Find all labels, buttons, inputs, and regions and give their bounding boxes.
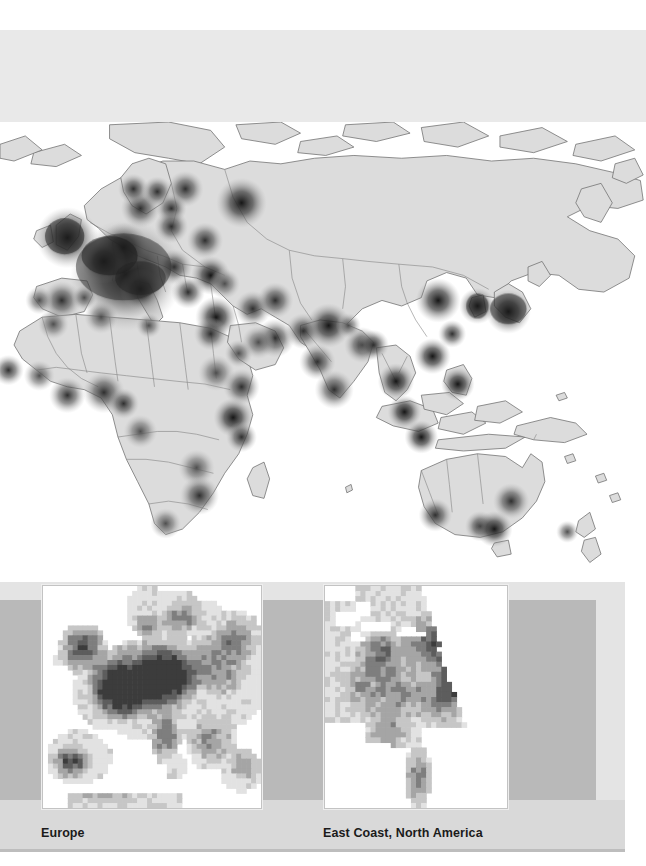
raster-cell: [187, 749, 193, 755]
raster-cell: [246, 650, 252, 656]
raster-cell: [83, 625, 89, 631]
raster-cell: [381, 636, 387, 642]
raster-cell: [256, 685, 261, 691]
raster-cell: [251, 635, 257, 641]
density-hotspot: [136, 313, 161, 338]
raster-cell: [207, 601, 213, 607]
raster-cell: [73, 625, 79, 631]
raster-cell: [226, 685, 232, 691]
raster-cell: [386, 631, 392, 637]
raster-cell: [83, 744, 89, 750]
raster-cell: [256, 773, 261, 779]
raster-cell: [436, 652, 442, 658]
raster-cell: [231, 719, 237, 725]
raster-cell: [83, 749, 89, 755]
raster-cell: [202, 759, 208, 765]
raster-cell: [98, 764, 104, 770]
raster-cell: [172, 739, 178, 745]
raster-cell: [88, 695, 94, 701]
raster-cell: [197, 734, 203, 740]
raster-cell: [236, 685, 242, 691]
raster-cell: [360, 652, 366, 658]
raster-cell: [371, 586, 377, 592]
raster-cell: [236, 675, 242, 681]
raster-cell: [411, 712, 417, 718]
raster-cell: [147, 596, 153, 602]
raster-cell: [177, 625, 183, 631]
raster-cell: [396, 652, 402, 658]
raster-cell: [355, 707, 361, 713]
raster-cell: [236, 764, 242, 770]
raster-cell: [236, 709, 242, 715]
raster-cell: [162, 699, 168, 705]
raster-cell: [211, 709, 217, 715]
raster-cell: [211, 724, 217, 730]
raster-cell: [236, 788, 242, 794]
raster-cell: [381, 596, 387, 602]
raster-cell: [411, 732, 417, 738]
raster-cell: [386, 737, 392, 743]
raster-cell: [406, 697, 412, 703]
raster-cell: [142, 685, 148, 691]
raster-cell: [98, 744, 104, 750]
raster-cell: [137, 655, 143, 661]
raster-cell: [117, 714, 123, 720]
raster-cell: [192, 660, 198, 666]
raster-cell: [241, 719, 247, 725]
raster-cell: [167, 655, 173, 661]
raster-cell: [226, 635, 232, 641]
raster-cell: [167, 625, 173, 631]
raster-cell: [93, 759, 99, 765]
raster-cell: [197, 724, 203, 730]
raster-cell: [211, 719, 217, 725]
raster-cell: [360, 647, 366, 653]
raster-cell: [172, 759, 178, 765]
raster-cell: [132, 719, 138, 725]
raster-cell: [202, 764, 208, 770]
raster-cell: [122, 803, 128, 808]
raster-cell: [221, 680, 227, 686]
raster-cell: [401, 596, 407, 602]
raster-cell: [68, 749, 74, 755]
raster-cell: [426, 682, 432, 688]
raster-cell: [231, 685, 237, 691]
raster-cell: [187, 640, 193, 646]
raster-cell: [371, 611, 377, 617]
raster-cell: [396, 667, 402, 673]
density-hotspot: [216, 178, 267, 228]
raster-cell: [137, 625, 143, 631]
raster-cell: [365, 732, 371, 738]
raster-cell: [182, 690, 188, 696]
raster-cell: [177, 606, 183, 612]
raster-cell: [152, 591, 158, 597]
raster-cell: [182, 764, 188, 770]
raster-cell: [365, 687, 371, 693]
raster-cell: [221, 655, 227, 661]
raster-cell: [207, 729, 213, 735]
raster-cell: [117, 793, 123, 799]
raster-cell: [376, 732, 382, 738]
raster-cell: [177, 719, 183, 725]
raster-cell: [411, 662, 417, 668]
raster-cell: [406, 773, 412, 779]
raster-cell: [365, 662, 371, 668]
raster-cell: [142, 611, 148, 617]
raster-cell: [416, 737, 422, 743]
raster-cell: [157, 754, 163, 760]
raster-cell: [451, 712, 457, 718]
raster-cell: [122, 675, 128, 681]
raster-cell: [102, 695, 108, 701]
raster-cell: [236, 645, 242, 651]
raster-cell: [236, 778, 242, 784]
raster-cell: [137, 670, 143, 676]
raster-cell: [172, 655, 178, 661]
raster-cell: [142, 660, 148, 666]
raster-cell: [63, 744, 69, 750]
raster-cell: [68, 635, 74, 641]
raster-cell: [78, 645, 84, 651]
raster-cell: [132, 734, 138, 740]
raster-cell: [107, 690, 113, 696]
raster-cell: [63, 645, 69, 651]
raster-cell: [421, 687, 427, 693]
raster-cell: [406, 621, 412, 627]
